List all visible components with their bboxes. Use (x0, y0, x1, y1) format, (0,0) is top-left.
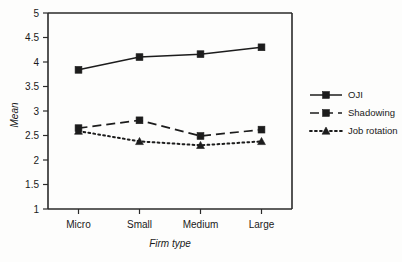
data-series-group (75, 44, 266, 149)
series-line (79, 120, 262, 136)
legend-marker-swatch (323, 92, 330, 99)
line-chart-canvas: 11.522.533.544.55 MicroSmallMediumLarge … (0, 0, 402, 262)
legend-marker-swatch (323, 110, 330, 117)
legend-marker-swatch (322, 127, 330, 134)
legend-item-oji[interactable]: OJI (310, 89, 363, 100)
y-axis-ticks: 11.522.533.544.55 (25, 8, 48, 215)
x-category-label: Micro (66, 219, 91, 230)
data-point-marker (197, 133, 204, 140)
y-tick-label: 2.5 (25, 130, 39, 141)
data-point-marker (75, 66, 82, 73)
series-oji (75, 44, 265, 73)
data-point-marker (136, 54, 143, 61)
y-tick-label: 1 (33, 204, 39, 215)
chart-legend: OJIShadowingJob rotation (310, 89, 398, 136)
data-point-marker (197, 51, 204, 58)
x-category-labels: MicroSmallMediumLarge (66, 219, 274, 230)
y-tick-label: 4.5 (25, 32, 39, 43)
y-tick-label: 5 (33, 8, 39, 19)
y-tick-label: 3.5 (25, 81, 39, 92)
y-tick-label: 4 (33, 57, 39, 68)
legend-label: Shadowing (348, 107, 395, 118)
chart-figure: 11.522.533.544.55 MicroSmallMediumLarge … (0, 0, 402, 262)
data-point-marker (136, 117, 143, 124)
y-tick-label: 3 (33, 106, 39, 117)
data-point-marker (258, 44, 265, 51)
legend-label: Job rotation (348, 125, 398, 136)
series-line (79, 47, 262, 70)
legend-item-shadowing[interactable]: Shadowing (310, 107, 395, 118)
legend-label: OJI (348, 89, 363, 100)
data-point-marker (258, 126, 265, 133)
x-category-label: Medium (183, 219, 219, 230)
series-job-rotation (75, 127, 266, 148)
x-axis-title: Firm type (149, 238, 191, 249)
legend-item-job-rotation[interactable]: Job rotation (310, 125, 398, 136)
y-tick-label: 2 (33, 155, 39, 166)
y-tick-label: 1.5 (25, 179, 39, 190)
x-category-label: Large (249, 219, 275, 230)
y-axis-title: Mean (9, 102, 20, 127)
x-category-label: Small (127, 219, 152, 230)
